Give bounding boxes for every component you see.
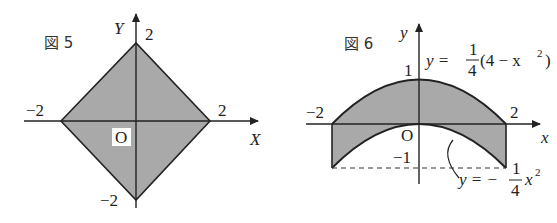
eq-upper-sup: 2	[537, 47, 543, 59]
x-axis-label: x	[540, 128, 549, 147]
tick-y-1: 1	[404, 61, 413, 80]
tick-x-pos: 2	[510, 103, 519, 122]
eq-upper-y: y =	[424, 51, 449, 70]
diagram-canvas: O 図 5 Y X 2 −2 2 −2 図 6 y x O 1 −2 2 −1	[0, 0, 557, 223]
y-axis-label: Y	[114, 19, 125, 38]
figure-caption: 図 5	[44, 34, 73, 52]
tick-x-neg: −2	[306, 103, 324, 122]
origin-label: O	[401, 126, 413, 145]
eq-upper-close: )	[545, 51, 551, 70]
tick-y-neg1: −1	[393, 148, 411, 167]
pointer-arc	[448, 140, 459, 178]
tick-x-pos: 2	[218, 101, 227, 120]
tick-y-pos: 2	[145, 25, 154, 44]
origin-label: O	[115, 128, 127, 147]
x-axis-label: X	[249, 130, 261, 149]
figure-6: 図 6 y x O 1 −2 2 −1 y = 1 4 (4 − x 2 ) y…	[306, 23, 551, 200]
tick-x-neg: −2	[26, 101, 44, 120]
y-axis-label: y	[398, 23, 408, 42]
eq-upper-frac-den: 4	[468, 61, 477, 80]
upper-curve-equation: y = 1 4 (4 − x 2 )	[424, 40, 551, 80]
eq-lower-frac-den: 4	[511, 181, 520, 200]
lower-curve-equation: y = − 1 4 x 2	[457, 159, 541, 200]
eq-lower-sup: 2	[535, 166, 541, 178]
eq-lower-rest: x	[524, 170, 533, 189]
eq-upper-rest: (4 − x	[480, 51, 521, 70]
figure-5: O 図 5 Y X 2 −2 2 −2	[24, 14, 261, 210]
tick-y-neg: −2	[100, 191, 118, 210]
eq-lower-y: y = −	[457, 170, 498, 189]
eq-upper-frac-num: 1	[469, 40, 478, 59]
eq-lower-frac-num: 1	[512, 159, 521, 178]
figure-caption: 図 6	[344, 35, 373, 53]
